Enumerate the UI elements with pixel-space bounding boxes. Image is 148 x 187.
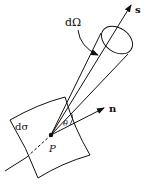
label-direction: s — [135, 4, 141, 15]
point-p — [49, 133, 53, 137]
cone-side-left — [51, 33, 101, 135]
label-normal: n — [109, 103, 117, 114]
normal-line-dashed — [27, 135, 51, 157]
label-solid-angle: dΩ — [65, 16, 81, 29]
normal-line-outside — [5, 157, 27, 171]
label-angle: θ — [63, 119, 68, 128]
label-point: P — [48, 143, 56, 154]
radiance-diagram: dΩ s n dσ P θ — [0, 0, 148, 187]
direction-arrow — [51, 5, 131, 135]
label-area: dσ — [15, 121, 28, 132]
solid-angle-pointer — [78, 30, 98, 55]
surface-patch — [10, 97, 90, 178]
cone-opening — [96, 20, 138, 59]
